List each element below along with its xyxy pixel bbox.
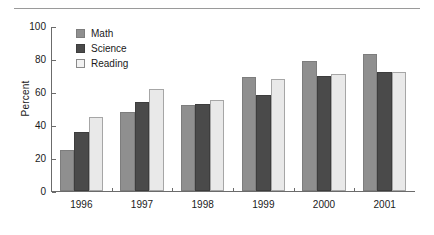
x-axis-label-2000: 2000 bbox=[294, 199, 355, 210]
legend-label-math: Math bbox=[91, 26, 113, 41]
x-axis-tick-mark bbox=[172, 188, 173, 191]
y-axis-tick-label: 60 bbox=[35, 86, 46, 99]
x-axis-label-1997: 1997 bbox=[112, 199, 173, 210]
math-swatch bbox=[76, 29, 85, 38]
y-axis-tick-label: 80 bbox=[35, 53, 46, 66]
y-axis-tick-label: 100 bbox=[29, 20, 46, 33]
x-axis-tick-mark bbox=[233, 188, 234, 191]
y-axis-line bbox=[51, 27, 52, 192]
bar-reading-1996 bbox=[89, 117, 104, 191]
bar-science-1998 bbox=[195, 104, 210, 191]
y-axis-tick-mark bbox=[52, 93, 56, 94]
chart-legend: MathScienceReading bbox=[76, 26, 128, 71]
bar-science-1999 bbox=[256, 95, 271, 191]
x-axis-tick-mark bbox=[112, 188, 113, 191]
bar-science-2001 bbox=[377, 72, 392, 191]
x-axis-line bbox=[51, 191, 415, 192]
x-axis-label-1996: 1996 bbox=[51, 199, 112, 210]
y-axis-tick-mark bbox=[52, 126, 56, 127]
x-axis-label-2001: 2001 bbox=[354, 199, 415, 210]
x-axis-tick-mark bbox=[354, 188, 355, 191]
legend-label-reading: Reading bbox=[91, 56, 128, 71]
top-rule-divider bbox=[14, 8, 420, 9]
legend-item-reading: Reading bbox=[76, 56, 128, 71]
bar-science-1996 bbox=[74, 132, 89, 191]
y-axis-tick-label: 40 bbox=[35, 119, 46, 132]
bar-reading-1997 bbox=[149, 89, 164, 191]
y-axis-title: Percent bbox=[20, 64, 31, 134]
legend-item-math: Math bbox=[76, 26, 128, 41]
bar-math-1999 bbox=[242, 77, 257, 191]
y-axis-tick-label: 0 bbox=[40, 185, 46, 198]
y-axis-tick-mark bbox=[52, 60, 56, 61]
reading-swatch bbox=[76, 59, 85, 68]
x-axis-label-1998: 1998 bbox=[172, 199, 233, 210]
bar-math-2000 bbox=[302, 61, 317, 191]
x-axis-label-1999: 1999 bbox=[233, 199, 294, 210]
bar-math-1997 bbox=[120, 112, 135, 191]
bar-reading-2000 bbox=[331, 74, 346, 191]
x-axis-tick-mark bbox=[294, 188, 295, 191]
bar-reading-2001 bbox=[392, 72, 407, 191]
y-axis-tick-label: 20 bbox=[35, 152, 46, 165]
bar-math-1998 bbox=[181, 105, 196, 191]
y-axis-tick-mark bbox=[52, 192, 56, 193]
bar-reading-1999 bbox=[271, 79, 286, 191]
y-axis-tick-mark bbox=[52, 159, 56, 160]
bar-science-1997 bbox=[135, 102, 150, 191]
legend-item-science: Science bbox=[76, 41, 128, 56]
science-swatch bbox=[76, 44, 85, 53]
bar-math-1996 bbox=[60, 150, 75, 191]
bar-chart-figure: Percent 020406080100 1996199719981999200… bbox=[0, 0, 434, 235]
bar-math-2001 bbox=[363, 54, 378, 191]
bar-science-2000 bbox=[317, 76, 332, 192]
bar-reading-1998 bbox=[210, 100, 225, 191]
y-axis-tick-mark bbox=[52, 27, 56, 28]
legend-label-science: Science bbox=[91, 41, 127, 56]
